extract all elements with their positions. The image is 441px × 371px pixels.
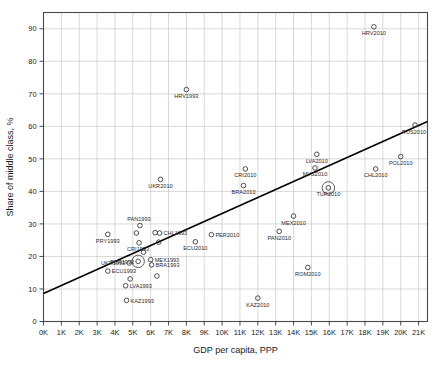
data-point-marker[interactable] (123, 283, 128, 288)
data-point-marker[interactable] (149, 263, 154, 268)
data-point-marker[interactable] (136, 259, 141, 264)
x-axis-tick-label: 17K (341, 328, 354, 337)
data-point-label: POL2010 (389, 160, 413, 166)
y-axis-tick-label: 50 (28, 155, 36, 164)
data-point-label: PAN1993 (127, 216, 151, 222)
x-axis-tick-label: 11K (234, 328, 247, 337)
data-point-marker[interactable] (105, 269, 110, 274)
data-point-label: MEX2010 (281, 220, 306, 226)
data-point-label: UKR1993 (101, 260, 125, 266)
x-axis-tick-label: 3K (93, 328, 102, 337)
data-point-label: ROM2010 (295, 271, 321, 277)
data-point-marker[interactable] (158, 177, 163, 182)
data-point-label: ECU1993 (112, 268, 136, 274)
data-point-marker[interactable] (313, 166, 318, 171)
data-point-marker[interactable] (193, 240, 198, 245)
x-axis-tick-label: 15K (305, 328, 318, 337)
data-point-marker[interactable] (153, 230, 158, 235)
x-axis-tick-label: 7K (164, 328, 173, 337)
y-axis-tick-label: 0 (32, 317, 36, 326)
x-axis-tick-label: 14K (287, 328, 300, 337)
data-point-label: UKR2010 (148, 183, 172, 189)
y-axis-title: Share of middle class, % (5, 117, 15, 216)
trend-line (44, 121, 428, 293)
x-axis-tick-label: 4K (110, 328, 119, 337)
x-axis-tick-label: 18K (358, 328, 371, 337)
data-point-marker[interactable] (326, 186, 331, 191)
data-point-label: PRY1993 (96, 238, 120, 244)
data-point-label: ECU2010 (183, 245, 207, 251)
x-axis-tick-label: 8K (182, 328, 191, 337)
data-point-label: BRA2010 (232, 189, 256, 195)
x-axis-tick-label: 2K (75, 328, 84, 337)
y-axis-tick-label: 40 (28, 187, 36, 196)
data-point-label: KAZ1993 (131, 298, 154, 304)
data-point-marker[interactable] (209, 232, 214, 237)
x-axis-tick-label: 16K (323, 328, 336, 337)
data-point-marker[interactable] (157, 231, 162, 236)
x-axis-tick-label: 20K (394, 328, 407, 337)
x-axis-tick-label: 1K (57, 328, 66, 337)
data-point-marker[interactable] (241, 183, 246, 188)
x-axis-tick-label: 6K (146, 328, 155, 337)
data-point-marker[interactable] (306, 265, 311, 270)
y-axis-tick-label: 60 (28, 122, 36, 131)
x-axis-tick-label: 5K (128, 328, 137, 337)
x-axis-tick-label: 19K (376, 328, 389, 337)
data-point-label: BRA1993 (156, 262, 180, 268)
data-point-label: HRV1993 (174, 93, 198, 99)
x-axis-title: GDP per capita, PPP (193, 345, 277, 355)
data-point-marker[interactable] (137, 240, 142, 245)
plot-frame (44, 13, 428, 322)
data-point-marker[interactable] (243, 167, 248, 172)
x-axis-tick-label: 10K (216, 328, 229, 337)
x-axis-tick-label: 12K (251, 328, 264, 337)
data-point-label: MYS2010 (303, 171, 328, 177)
data-point-label: CRI2010 (234, 172, 256, 178)
data-point-marker[interactable] (314, 152, 319, 157)
data-point-marker[interactable] (128, 277, 133, 282)
data-point-label: HRV2010 (362, 30, 386, 36)
data-point-label: PAN2010 (267, 235, 291, 241)
data-point-marker[interactable] (124, 298, 129, 303)
data-point-label: TUR2010 (316, 191, 340, 197)
data-point-marker[interactable] (105, 232, 110, 237)
data-point-label: CHL1993 (164, 230, 188, 236)
x-axis-tick-label: 9K (200, 328, 209, 337)
data-point-marker[interactable] (134, 231, 139, 236)
data-point-marker[interactable] (277, 229, 282, 234)
y-axis-tick-label: 80 (28, 57, 36, 66)
x-axis-tick-label: 0K (39, 328, 48, 337)
x-axis-tick-label: 21K (412, 328, 425, 337)
data-point-label: LVA1993 (130, 283, 152, 289)
scatter-chart-figure: 0K1K2K3K4K5K6K7K8K9K10K11K12K13K14K15K16… (0, 0, 441, 371)
y-axis-tick-label: 10 (28, 285, 36, 294)
data-point-marker[interactable] (155, 274, 160, 279)
chart-canvas: 0K1K2K3K4K5K6K7K8K9K10K11K12K13K14K15K16… (0, 0, 441, 371)
data-point-marker[interactable] (373, 167, 378, 172)
y-axis-tick-label: 20 (28, 252, 36, 261)
x-axis-tick-label: 13K (269, 328, 282, 337)
data-point-label: LVA2010 (306, 158, 328, 164)
data-point-label: CHL2010 (364, 172, 388, 178)
y-axis-tick-label: 30 (28, 220, 36, 229)
data-point-label: RUS2010 (402, 129, 426, 135)
data-point-label: PER2010 (215, 232, 239, 238)
data-point-label: KAZ2010 (246, 302, 269, 308)
y-axis-tick-label: 90 (28, 24, 36, 33)
y-axis-tick-label: 70 (28, 90, 36, 99)
